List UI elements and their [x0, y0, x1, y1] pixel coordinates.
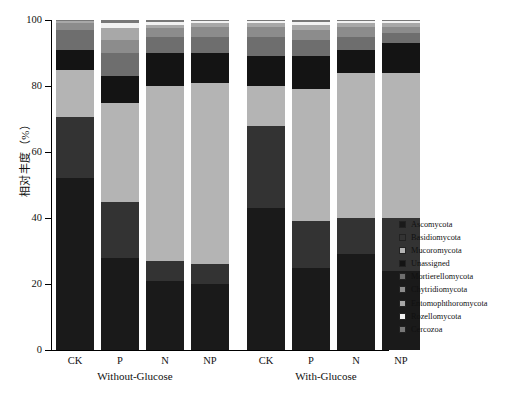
legend-swatch-icon — [399, 300, 406, 307]
segment-chytridiomycota — [382, 27, 420, 34]
chart-figure: 100806040200 相对丰度（%） AscomycotaBasidiomy… — [0, 0, 518, 399]
segment-unassigned — [146, 53, 184, 86]
segment-ascomycota — [146, 281, 184, 350]
bar-2 — [146, 20, 184, 350]
legend-item-chytridiomycota[interactable]: Chytridiomycota — [399, 285, 517, 294]
segment-mortierellomycota — [191, 37, 229, 54]
legend-label: Ascomycota — [411, 220, 452, 229]
bar-0 — [56, 20, 94, 350]
segment-unassigned — [101, 76, 139, 102]
segment-mucoromycota — [292, 89, 330, 221]
segment-basidiomycota — [56, 117, 94, 178]
legend-item-unassigned[interactable]: Unassigned — [399, 259, 517, 268]
y-tick-label: 100 — [18, 15, 42, 25]
segment-mucoromycota — [56, 70, 94, 118]
segment-ascomycota — [337, 254, 375, 350]
legend-swatch-icon — [399, 221, 406, 228]
legend-swatch-icon — [399, 286, 406, 293]
segment-mortierellomycota — [56, 30, 94, 50]
legend-swatch-icon — [399, 234, 406, 241]
legend-item-cercozoa[interactable]: Cercozoa — [399, 325, 517, 334]
legend-label: Unassigned — [411, 259, 450, 268]
legend-swatch-icon — [399, 313, 406, 320]
segment-unassigned — [292, 56, 330, 89]
segment-chytridiomycota — [56, 23, 94, 30]
segment-chytridiomycota — [191, 27, 229, 37]
x-axis-line — [51, 350, 389, 351]
segment-mortierellomycota — [247, 37, 285, 57]
segment-mortierellomycota — [292, 40, 330, 57]
segment-entomophthoromycota — [101, 28, 139, 40]
legend-item-mucoromycota[interactable]: Mucoromycota — [399, 246, 517, 255]
y-tick-label: 80 — [18, 81, 42, 91]
segment-basidiomycota — [191, 264, 229, 284]
bar-5 — [292, 20, 330, 350]
segment-unassigned — [56, 50, 94, 70]
legend-item-mortierellomycota[interactable]: Mortierellomycota — [399, 272, 517, 281]
bars-container — [52, 20, 390, 350]
x-tick-label: NP — [371, 355, 431, 366]
bar-1 — [101, 20, 139, 350]
y-axis-title: 相对丰度（%） — [16, 98, 32, 218]
segment-mortierellomycota — [146, 37, 184, 54]
segment-ascomycota — [247, 208, 285, 350]
legend-swatch-icon — [399, 260, 406, 267]
group-label-0: Without-Glucose — [35, 370, 235, 382]
segment-chytridiomycota — [337, 27, 375, 37]
segment-mortierellomycota — [101, 53, 139, 76]
segment-ascomycota — [101, 258, 139, 350]
legend-item-ascomycota[interactable]: Ascomycota — [399, 220, 517, 229]
segment-chytridiomycota — [247, 27, 285, 37]
group-label-1: With-Glucose — [226, 370, 426, 382]
legend-label: Mortierellomycota — [411, 272, 473, 281]
bar-3 — [191, 20, 229, 350]
segment-unassigned — [382, 43, 420, 73]
segment-ascomycota — [56, 178, 94, 350]
segment-unassigned — [247, 56, 285, 86]
segment-chytridiomycota — [292, 30, 330, 40]
legend-label: Entomophthoromycota — [411, 299, 488, 308]
bar-4 — [247, 20, 285, 350]
segment-chytridiomycota — [146, 28, 184, 36]
segment-ascomycota — [292, 268, 330, 351]
segment-mucoromycota — [337, 73, 375, 218]
legend-label: Chytridiomycota — [411, 285, 467, 294]
segment-basidiomycota — [101, 202, 139, 258]
segment-mortierellomycota — [382, 33, 420, 43]
legend-swatch-icon — [399, 247, 406, 254]
segment-basidiomycota — [292, 221, 330, 267]
y-tick-label: 20 — [18, 279, 42, 289]
segment-basidiomycota — [247, 126, 285, 209]
legend-label: Rozellomycota — [411, 312, 461, 321]
segment-basidiomycota — [337, 218, 375, 254]
segment-mucoromycota — [247, 86, 285, 126]
segment-unassigned — [191, 53, 229, 83]
legend: AscomycotaBasidiomycotaMucoromycotaUnass… — [399, 220, 517, 338]
segment-mucoromycota — [101, 103, 139, 202]
legend-label: Mucoromycota — [411, 246, 462, 255]
segment-mucoromycota — [191, 83, 229, 265]
x-tick-label: NP — [180, 355, 240, 366]
segment-unassigned — [337, 50, 375, 73]
segment-basidiomycota — [146, 261, 184, 281]
legend-item-entomophthoromycota[interactable]: Entomophthoromycota — [399, 299, 517, 308]
segment-ascomycota — [191, 284, 229, 350]
segment-mucoromycota — [146, 86, 184, 261]
segment-mortierellomycota — [337, 37, 375, 50]
legend-swatch-icon — [399, 326, 406, 333]
segment-mucoromycota — [382, 73, 420, 218]
legend-item-rozellomycota[interactable]: Rozellomycota — [399, 312, 517, 321]
segment-chytridiomycota — [101, 40, 139, 53]
legend-item-basidiomycota[interactable]: Basidiomycota — [399, 233, 517, 242]
bar-6 — [337, 20, 375, 350]
y-tick-label: 0 — [18, 345, 42, 355]
legend-label: Cercozoa — [411, 325, 442, 334]
legend-label: Basidiomycota — [411, 233, 461, 242]
legend-swatch-icon — [399, 273, 406, 280]
